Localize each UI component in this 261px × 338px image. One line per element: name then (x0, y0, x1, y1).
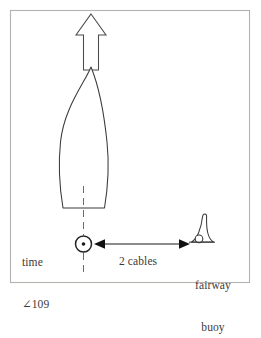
buoy-ring-icon (195, 235, 203, 243)
buoy-label-line-1: fairway (185, 278, 241, 292)
angle-label-line: ∠109 (22, 297, 49, 311)
buoy-label-line-2: buoy (185, 320, 241, 334)
time-label-line: time (22, 255, 49, 269)
fairway-buoy-label: fairway buoy (185, 250, 241, 338)
distance-label: 2 cables (119, 254, 157, 268)
time-fix-label: time ∠109 (22, 227, 49, 338)
fix-center-dot-icon (82, 242, 86, 246)
